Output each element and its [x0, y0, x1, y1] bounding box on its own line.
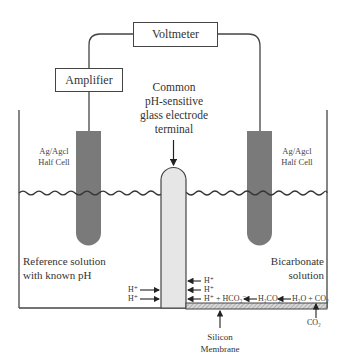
common-electrode-line-1: Common: [128, 80, 220, 94]
left-h-arrows: [140, 290, 159, 299]
left-h-ion-2: H⁺: [128, 294, 138, 303]
membrane-label: Silicon Membrane: [190, 331, 250, 355]
reference-solution-label: Reference solution with known pH: [23, 254, 106, 282]
right-half-cell-line-2: Half Cell: [274, 157, 320, 168]
common-electrode-line-2: pH-sensitive: [128, 94, 220, 108]
co2-label: CO₂: [307, 318, 321, 327]
bicarbonate-solution-line-2: solution: [262, 268, 324, 282]
right-electrode: [247, 131, 272, 246]
reaction-intermediate: H₂CO₃: [258, 294, 280, 303]
voltmeter-label: Voltmeter: [152, 27, 199, 42]
amplifier-label: Amplifier: [65, 73, 112, 88]
common-electrode-line-3: glass electrode: [128, 108, 220, 122]
reference-solution-line-2: with known pH: [23, 268, 106, 282]
voltmeter-box: Voltmeter: [133, 22, 218, 47]
reference-solution-line-1: Reference solution: [23, 254, 106, 268]
diagram-canvas: [0, 0, 344, 360]
amplifier-box: Amplifier: [55, 68, 123, 92]
left-half-cell-line-2: Half Cell: [32, 157, 76, 168]
common-electrode-line-4: terminal: [128, 122, 220, 136]
reaction-reactants: H₂O + CO₂: [292, 294, 329, 303]
left-half-cell-label: Ag/Agcl Half Cell: [32, 146, 76, 168]
bicarbonate-solution-label: Bicarbonate solution: [262, 254, 324, 282]
right-half-cell-label: Ag/Agcl Half Cell: [274, 146, 320, 168]
reaction-products: H⁺ + HCO₃⁻: [204, 294, 246, 303]
membrane-line-2: Membrane: [190, 343, 250, 355]
right-half-cell-line-1: Ag/Agcl: [274, 146, 320, 157]
wire-voltmeter-amplifier: [89, 34, 133, 68]
silicon-membrane: [186, 303, 327, 309]
right-h-ion-1: H⁺: [204, 276, 214, 285]
left-half-cell-line-1: Ag/Agcl: [32, 146, 76, 157]
membrane-line-1: Silicon: [190, 331, 250, 343]
wire-voltmeter-right-electrode: [218, 34, 260, 131]
left-h-ion-1: H⁺: [128, 285, 138, 294]
bicarbonate-solution-line-1: Bicarbonate: [262, 254, 324, 268]
common-electrode-label: Common pH-sensitive glass electrode term…: [128, 80, 220, 136]
right-h-ion-2: H⁺: [204, 285, 214, 294]
glass-electrode: [161, 168, 186, 309]
left-electrode: [76, 131, 101, 246]
